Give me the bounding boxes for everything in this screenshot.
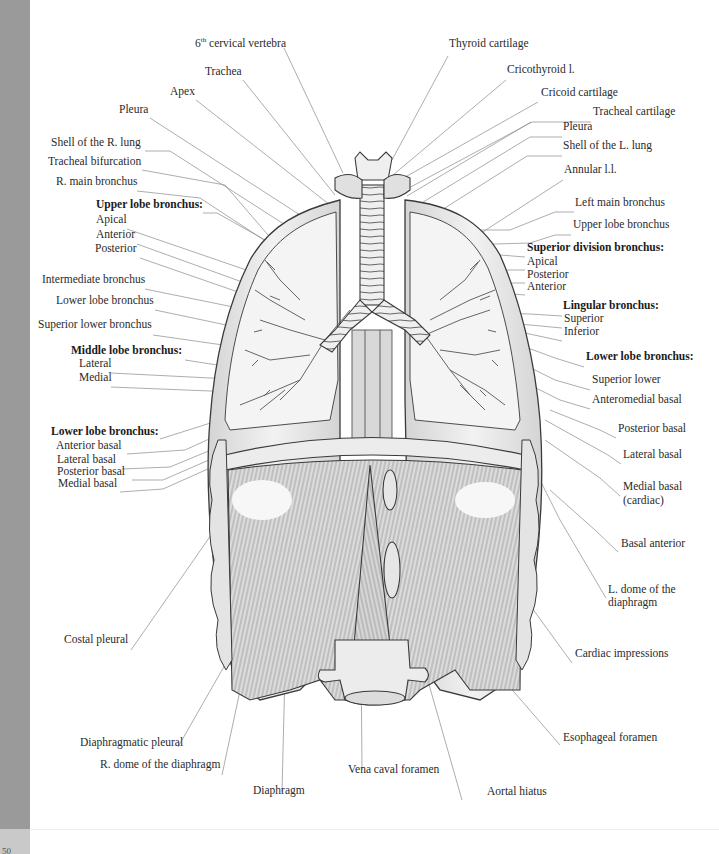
label-medial-m: Medial — [79, 371, 112, 384]
label-basal-anterior: Basal anterior — [621, 537, 685, 550]
label-superior-ling: Superior — [564, 312, 604, 325]
label-upper-lobe-r: Upper lobe bronchus: — [96, 198, 203, 211]
label-lower-lobe-r: Lower lobe bronchus — [56, 294, 154, 307]
label-r-dome: R. dome of the diaphragm — [100, 758, 220, 771]
label-shell-r: Shell of the R. lung — [51, 136, 141, 149]
label-anterior-l: Anterior — [527, 280, 566, 293]
label-anteromedial: Anteromedial basal — [592, 393, 682, 406]
label-trachea: Trachea — [205, 65, 242, 78]
label-esophageal: Esophageal foramen — [563, 731, 657, 744]
label-medial-basal-r: Medial basal — [58, 477, 117, 490]
label-pleura-r: Pleura — [119, 103, 148, 116]
label-costal-pleural: Costal pleural — [64, 633, 128, 646]
label-lingular: Lingular bronchus: — [563, 299, 659, 312]
label-apical-r: Apical — [96, 213, 127, 226]
label-superior-lower-r: Superior lower bronchus — [38, 318, 152, 331]
label-posterior-r: Posterior — [95, 242, 137, 255]
label-diaphragmatic-pleural: Diaphragmatic pleural — [80, 736, 183, 749]
label-upper-lobe-l: Upper lobe bronchus — [573, 218, 669, 231]
label-cricoid: Cricoid cartilage — [541, 86, 618, 99]
label-aortal: Aortal hiatus — [487, 785, 547, 798]
label-pleura-l: Pleura — [563, 120, 592, 133]
page-number: 50 — [2, 846, 11, 854]
mediastinum — [352, 330, 392, 440]
label-thyroid: Thyroid cartilage — [449, 37, 529, 50]
label-l-dome-1: L. dome of the — [608, 583, 676, 596]
label-medial-basal-l: Medial basal — [623, 480, 682, 493]
label-l-dome-2: diaphragm — [608, 596, 657, 609]
label-vena-caval: Vena caval foramen — [348, 763, 439, 776]
label-inferior-ling: Inferior — [564, 325, 599, 338]
label-intermediate: Intermediate bronchus — [42, 273, 145, 286]
label-lower-lobe-r2: Lower lobe bronchus: — [51, 425, 159, 438]
label-diaphragm: Diaphragm — [253, 784, 305, 797]
label-anterior-basal-r: Anterior basal — [56, 439, 121, 452]
label-cardiac: (cardiac) — [623, 494, 664, 507]
label-middle-lobe: Middle lobe bronchus: — [71, 344, 182, 357]
label-superior-lower-l: Superior lower — [592, 373, 661, 386]
label-tracheal-bif: Tracheal bifurcation — [48, 155, 141, 168]
label-annular: Annular l.l. — [564, 163, 617, 176]
label-apex: Apex — [170, 85, 195, 98]
label-cricothyroid: Cricothyroid l. — [507, 63, 575, 76]
label-posterior-basal-l: Posterior basal — [618, 422, 686, 435]
label-shell-l: Shell of the L. lung — [563, 139, 652, 152]
label-tracheal-cart: Tracheal cartilage — [593, 105, 675, 118]
label-lateral-basal-l: Lateral basal — [623, 448, 682, 461]
label-cardiac-impr: Cardiac impressions — [575, 647, 669, 660]
label-r-main-bronchus: R. main bronchus — [56, 175, 137, 188]
label-cervical: 6th cervical vertebra — [195, 34, 286, 50]
label-apical-l: Apical — [527, 255, 558, 268]
label-lower-lobe-l: Lower lobe bronchus: — [586, 350, 694, 363]
label-anterior-r: Anterior — [96, 228, 135, 241]
label-lateral-m: Lateral — [79, 357, 112, 370]
label-left-main: Left main bronchus — [575, 196, 665, 209]
label-superior-division: Superior division bronchus: — [527, 241, 664, 254]
